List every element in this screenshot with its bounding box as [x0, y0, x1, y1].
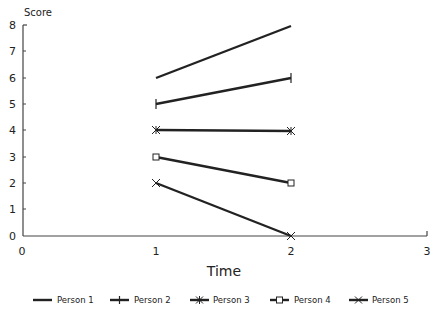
- series-person-1: [156, 26, 291, 78]
- line-chart: 0 1 2 3 4 5 6 7 8 Score 0 1 2 3 Time: [0, 0, 439, 315]
- x-tick-3: 3: [424, 245, 431, 258]
- y-tick-2: 2: [9, 177, 16, 190]
- y-tick-labels: 0 1 2 3 4 5 6 7 8: [9, 19, 16, 243]
- svg-text:Person 4: Person 4: [294, 295, 331, 305]
- y-tick-3: 3: [9, 151, 16, 164]
- x-tick-labels: 0 1 2 3: [19, 245, 431, 258]
- x-tick-2: 2: [288, 245, 295, 258]
- svg-text:Person 1: Person 1: [57, 295, 94, 305]
- legend-item-person-5: Person 5: [349, 295, 409, 305]
- series-person-2: [156, 73, 291, 109]
- y-tick-4: 4: [9, 124, 16, 137]
- x-axis-title: Time: [206, 263, 241, 279]
- svg-text:Person 5: Person 5: [372, 295, 409, 305]
- series-person-4: [153, 154, 294, 186]
- x-tick-1: 1: [153, 245, 160, 258]
- legend-item-person-1: Person 1: [33, 295, 94, 305]
- series-person-3: [152, 126, 295, 135]
- legend: Person 1 Person 2 Person 3 Person 4: [33, 295, 409, 305]
- x-tick-0: 0: [19, 245, 26, 258]
- y-tick-1: 1: [9, 203, 16, 216]
- svg-text:Person 3: Person 3: [213, 295, 250, 305]
- y-tick-0: 0: [9, 230, 16, 243]
- y-tick-8: 8: [9, 19, 16, 32]
- y-tick-7: 7: [9, 45, 16, 58]
- y-tick-5: 5: [9, 98, 16, 111]
- y-axis-title: Score: [24, 7, 52, 18]
- legend-item-person-4: Person 4: [270, 295, 331, 305]
- legend-item-person-3: Person 3: [190, 295, 250, 305]
- legend-item-person-2: Person 2: [110, 295, 171, 305]
- series-person-5: [152, 179, 295, 240]
- y-tick-6: 6: [9, 72, 16, 85]
- svg-text:Person 2: Person 2: [134, 295, 171, 305]
